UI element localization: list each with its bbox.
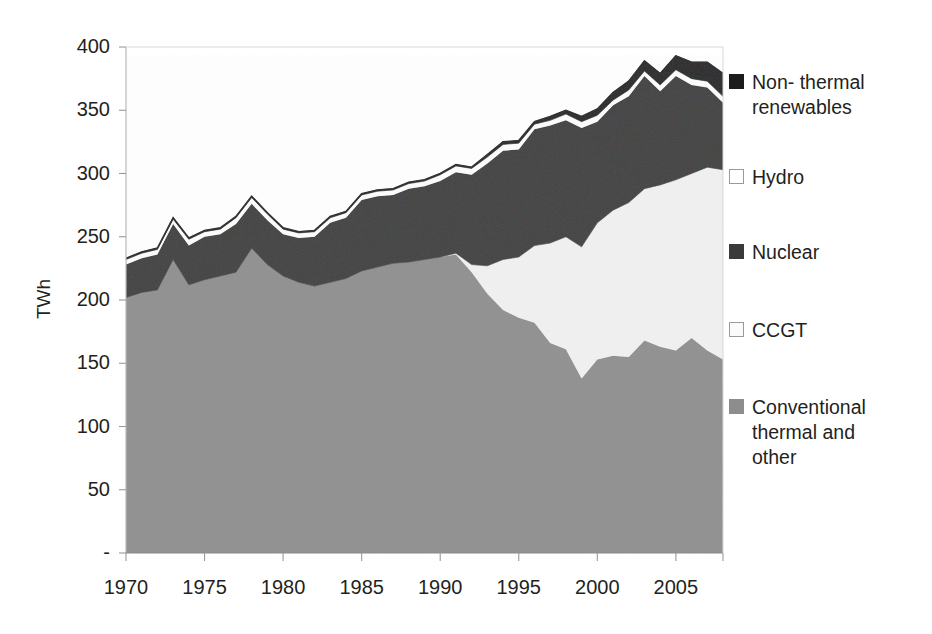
legend-label: Hydro — [752, 165, 804, 190]
legend-swatch-icon — [729, 399, 744, 414]
legend-label: Conventional thermal and other — [752, 395, 866, 470]
legend-item[interactable]: CCGT — [729, 318, 807, 343]
legend-item[interactable]: Nuclear — [729, 240, 819, 265]
legend-label: Non- thermal renewables — [752, 70, 865, 120]
chart-figure: TWh -50100150200250300350400 19701975198… — [0, 0, 932, 634]
y-tick-label: 250 — [54, 226, 110, 246]
legend-swatch-icon — [729, 244, 744, 259]
x-tick-label: 1975 — [165, 576, 245, 598]
x-tick-label: 2000 — [557, 576, 637, 598]
y-tick-label: 300 — [54, 163, 110, 183]
x-tick-label: 1995 — [479, 576, 559, 598]
x-tick-label: 2005 — [636, 576, 716, 598]
y-tick-label: 150 — [54, 352, 110, 372]
x-tick-label: 1985 — [322, 576, 402, 598]
legend-swatch-icon — [729, 74, 744, 89]
legend-item[interactable]: Conventional thermal and other — [729, 395, 866, 470]
legend-label: Nuclear — [752, 240, 819, 265]
legend-label: CCGT — [752, 318, 807, 343]
legend-swatch-icon — [729, 322, 744, 337]
y-tick-label: 400 — [54, 36, 110, 56]
x-tick-label: 1970 — [86, 576, 166, 598]
y-tick-label: - — [54, 542, 110, 562]
y-tick-label: 100 — [54, 416, 110, 436]
y-tick-label: 50 — [54, 479, 110, 499]
legend-swatch-icon — [729, 169, 744, 184]
x-tick-label: 1980 — [243, 576, 323, 598]
legend-item[interactable]: Non- thermal renewables — [729, 70, 865, 120]
y-axis-title: TWh — [33, 279, 55, 319]
x-tick-label: 1990 — [400, 576, 480, 598]
legend-item[interactable]: Hydro — [729, 165, 804, 190]
y-tick-label: 350 — [54, 99, 110, 119]
y-tick-label: 200 — [54, 289, 110, 309]
